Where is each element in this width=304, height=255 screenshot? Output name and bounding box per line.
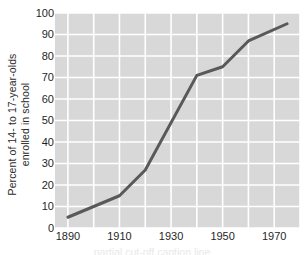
x-tick-label: 1970 bbox=[251, 231, 297, 242]
chart-figure: Percent of 14- to 17-year-olds enrolled … bbox=[0, 0, 304, 255]
figure-caption: partial cut-off caption line bbox=[0, 247, 304, 255]
x-tick-label: 1890 bbox=[45, 231, 91, 242]
x-axis-tick-labels: 18901910193019501970 bbox=[0, 0, 304, 255]
x-tick-label: 1930 bbox=[148, 231, 194, 242]
x-tick-label: 1950 bbox=[200, 231, 246, 242]
x-tick-label: 1910 bbox=[96, 231, 142, 242]
